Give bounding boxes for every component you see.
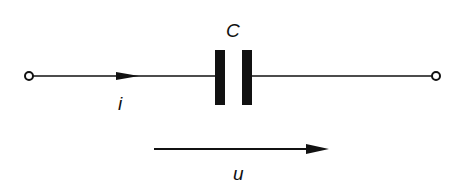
capacitor-plate-right: [242, 50, 252, 105]
voltage-arrowhead-icon: [306, 144, 329, 154]
capacitor-plate-left: [215, 50, 225, 105]
current-label: i: [118, 93, 123, 114]
right-terminal: [432, 72, 440, 80]
circuit-diagram: C i u: [0, 0, 464, 189]
left-terminal: [25, 72, 33, 80]
capacitor-label: C: [226, 20, 240, 41]
current-arrow-icon: [116, 72, 139, 80]
voltage-label: u: [233, 163, 244, 184]
